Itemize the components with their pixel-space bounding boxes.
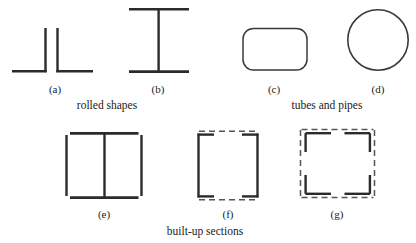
- round-pipe-outline: [348, 10, 408, 70]
- caption-rolled-shapes: rolled shapes: [37, 100, 177, 112]
- caption-tubes-and-pipes: tubes and pipes: [257, 100, 397, 112]
- shape-label-f: (f): [188, 209, 268, 220]
- shape-label-a: (a): [15, 84, 95, 95]
- shape-f-laced-channels: [198, 131, 259, 200]
- shape-g-laced-corner-angles: [301, 130, 375, 198]
- shape-label-b: (b): [118, 84, 198, 95]
- shape-label-c: (c): [234, 84, 314, 95]
- shape-b-i-beam: [129, 9, 189, 71]
- caption-built-up-sections: built-up sections: [135, 226, 275, 238]
- shape-d-round-pipe: [348, 10, 408, 70]
- shape-label-g: (g): [297, 209, 377, 220]
- shape-e-built-up-box: [67, 133, 142, 197]
- cross-section-drawing: [0, 0, 416, 243]
- shape-label-e: (e): [64, 209, 144, 220]
- shape-a-back-to-back-angles: [12, 28, 93, 72]
- shape-label-d: (d): [338, 84, 416, 95]
- figure-root: (a) (b) (c) (d) (e) (f) (g) rolled shape…: [0, 0, 416, 243]
- shape-c-rectangular-tube: [243, 29, 307, 71]
- rectangular-tube-outline: [243, 29, 307, 71]
